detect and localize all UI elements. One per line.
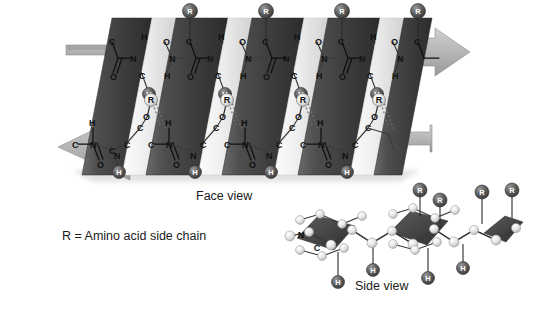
svg-text:R: R: [300, 95, 307, 105]
svg-text:R: R: [148, 95, 155, 105]
hydrogen-sphere: H: [332, 276, 345, 289]
atom-label-O: O: [391, 37, 398, 47]
svg-text:R: R: [376, 95, 383, 105]
atom-label-N: N: [321, 54, 328, 64]
atom-label-H: H: [164, 71, 171, 81]
r-group-sphere: R: [297, 94, 310, 107]
svg-text:H: H: [192, 168, 197, 177]
legend-text: R = Amino acid side chain: [62, 229, 206, 243]
atom-label-C: C: [124, 140, 131, 150]
r-group-sphere: R: [373, 94, 386, 107]
r-group-sphere: R: [183, 4, 198, 19]
atom-label-C: C: [200, 140, 207, 150]
atom-label-N: N: [190, 151, 197, 161]
atom-label-O: O: [97, 160, 104, 170]
svg-text:H: H: [116, 168, 121, 177]
beta-sheet-diagram: C O N H C O N H C O N H C O N H C O N H …: [0, 0, 533, 311]
atom-label-C: C: [109, 37, 116, 47]
atom-label-O: O: [325, 160, 332, 170]
atom-label-N: N: [397, 54, 404, 64]
svg-text:R: R: [417, 186, 423, 195]
svg-text:R: R: [415, 7, 421, 16]
atom-label-C: C: [186, 37, 193, 47]
svg-text:R: R: [437, 196, 443, 205]
atom-label-C: C: [224, 140, 231, 150]
atom-label-H: H: [165, 118, 172, 128]
atom-label-C: C: [314, 243, 321, 253]
atom-label-C: C: [367, 71, 374, 81]
atom-label-N: N: [166, 140, 173, 150]
r-group-sphere: R: [145, 94, 158, 107]
atom-label-C: C: [365, 123, 372, 133]
atom-label-H: H: [294, 32, 301, 42]
atom-label-O: O: [263, 72, 270, 82]
atom-label-N: N: [318, 140, 325, 150]
atom-label-C: C: [213, 123, 220, 133]
hydrogen-sphere: H: [422, 272, 435, 285]
atom-label-N: N: [342, 151, 349, 161]
face-view-caption: Face view: [196, 189, 253, 203]
r-group-sphere: R: [411, 4, 426, 19]
atom-label-O: O: [371, 112, 378, 122]
atom-label-O: O: [249, 160, 256, 170]
svg-text:R: R: [479, 188, 485, 197]
svg-text:R: R: [339, 7, 345, 16]
atom-label-C: C: [276, 140, 283, 150]
svg-text:H: H: [344, 168, 349, 177]
r-group-sphere: R: [335, 4, 350, 19]
atom-label-C: C: [137, 123, 144, 133]
atom-label-H: H: [316, 71, 323, 81]
r-group-sphere: R: [413, 183, 427, 197]
atom-label-C: C: [300, 140, 307, 150]
face-view-group: C O N H C O N H C O N H C O N H C O N H …: [58, 4, 470, 204]
figure-canvas: C O N H C O N H C O N H C O N H C O N H …: [0, 0, 533, 311]
r-group-sphere: R: [505, 183, 519, 197]
atom-label-C: C: [215, 71, 222, 81]
atom-label-O: O: [143, 112, 150, 122]
svg-text:H: H: [370, 266, 375, 275]
r-group-sphere: R: [433, 193, 447, 207]
svg-text:H: H: [460, 264, 465, 273]
atom-label-O: O: [219, 112, 226, 122]
hydrogen-sphere: H: [367, 264, 380, 277]
atom-label-N: N: [114, 151, 121, 161]
atom-label-O: O: [339, 72, 346, 82]
atom-label-C: C: [148, 140, 155, 150]
svg-text:H: H: [268, 168, 273, 177]
atom-label-O: O: [173, 160, 180, 170]
r-group-sphere: R: [221, 94, 234, 107]
atom-label-O: O: [295, 112, 302, 122]
atom-label-O: O: [187, 72, 194, 82]
atom-label-N: N: [130, 54, 137, 64]
atom-label-O: O: [110, 72, 117, 82]
atom-label-C: C: [289, 123, 296, 133]
svg-text:R: R: [263, 7, 269, 16]
hydrogen-sphere: H: [341, 166, 354, 179]
atom-label-C: C: [352, 140, 359, 150]
atom-label-N: N: [242, 140, 249, 150]
hydrogen-sphere: H: [457, 262, 470, 275]
atom-label-N: N: [207, 54, 214, 64]
atom-label-N: N: [245, 54, 252, 64]
atom-label-N: N: [359, 54, 366, 64]
svg-text:R: R: [509, 186, 515, 195]
hydrogen-sphere: H: [265, 166, 278, 179]
atom-label-N: N: [283, 54, 290, 64]
atom-label-O: O: [315, 37, 322, 47]
svg-text:H: H: [335, 278, 340, 287]
side-view-caption: Side view: [355, 279, 409, 293]
atom-label-H: H: [241, 118, 248, 128]
r-group-sphere: R: [475, 185, 489, 199]
atom-label-C: C: [139, 71, 146, 81]
atom-label-N: N: [90, 140, 97, 150]
svg-text:R: R: [224, 95, 231, 105]
atom-label-C: C: [414, 37, 421, 47]
atom-label-H: H: [218, 32, 225, 42]
atom-label-N: N: [266, 151, 273, 161]
atom-label-C: C: [338, 37, 345, 47]
atom-label-N: N: [169, 54, 176, 64]
atom-label-H: H: [370, 32, 377, 42]
atom-label-C: C: [262, 37, 269, 47]
atom-label-C: C: [72, 140, 79, 150]
svg-text:R: R: [187, 7, 193, 16]
